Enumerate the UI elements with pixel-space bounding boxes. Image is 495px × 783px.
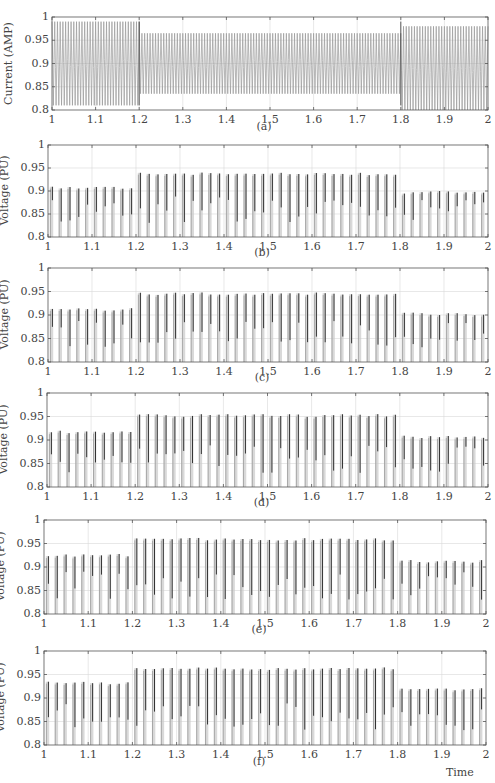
x-tick-label: 1.8 [383,618,413,629]
x-axis-label-time: Time [446,766,474,779]
panel-caption: (b) [247,246,277,259]
plot-area [52,17,488,110]
panel-caption: (c) [247,371,277,384]
plot-area [48,145,488,237]
y-tick-label: 0.9 [7,692,41,703]
y-tick-label: 0.95 [11,286,45,297]
y-tick-label: 0.85 [11,208,45,219]
x-tick-label: 1.8 [383,749,413,760]
x-tick-label: 1.4 [211,114,241,125]
y-tick-label: 0.95 [15,34,49,45]
x-tick-label: 1.8 [385,491,415,502]
x-tick-label: 1.6 [297,241,327,252]
y-tick-label: 0.85 [7,585,41,596]
y-tick-label: 1 [10,387,44,398]
plot-panel [48,145,488,237]
x-tick-label: 1.2 [121,366,151,377]
x-tick-label: 1.9 [427,749,457,760]
x-tick-label: 1 [33,366,63,377]
y-tick-label: 1 [15,11,49,22]
x-tick-label: 1.3 [165,241,195,252]
y-tick-label: 0.9 [10,434,44,445]
x-tick-label: 1.1 [77,366,107,377]
y-axis-label: Voltage (PU) [0,651,7,745]
x-tick-label: 1.6 [294,749,324,760]
x-tick-label: 1.9 [429,241,459,252]
x-tick-label: 1.3 [168,114,198,125]
x-tick-label: 1.6 [294,618,324,629]
x-tick-label: 1.8 [385,366,415,377]
y-tick-label: 0.95 [7,669,41,680]
y-tick-label: 0.85 [15,81,49,92]
y-tick-label: 0.85 [11,333,45,344]
panel-caption: (d) [247,496,277,509]
y-axis-label: Voltage (PU) [0,268,11,362]
y-tick-label: 0.9 [7,561,41,572]
x-tick-label: 1.6 [299,114,329,125]
x-tick-label: 1 [37,114,67,125]
x-tick-label: 1.7 [341,491,371,502]
panel-caption: (f) [244,755,274,768]
x-tick-label: 1.9 [429,114,459,125]
y-tick-label: 0.95 [10,411,44,422]
x-tick-label: 1.9 [427,618,457,629]
x-tick-label: 1.1 [73,618,103,629]
y-tick-label: 0.9 [11,309,45,320]
x-tick-label: 1.1 [73,749,103,760]
x-tick-label: 1.7 [341,241,371,252]
panel-caption: (a) [249,120,279,133]
x-tick-label: 1 [29,749,59,760]
x-tick-label: 1.2 [121,241,151,252]
x-tick-label: 1.4 [209,366,239,377]
y-tick-label: 1 [11,139,45,150]
x-tick-label: 1.6 [297,366,327,377]
x-tick-label: 1.7 [338,749,368,760]
plot-area [47,393,488,487]
x-tick-label: 1.3 [165,366,195,377]
plot-panel [44,520,486,614]
x-tick-label: 1.7 [341,366,371,377]
x-tick-label: 2 [473,114,495,125]
y-tick-label: 1 [7,514,41,525]
y-tick-label: 0.85 [10,458,44,469]
x-tick-label: 1.3 [162,618,192,629]
x-tick-label: 1 [32,491,62,502]
x-tick-label: 1.6 [297,491,327,502]
x-tick-label: 1.2 [124,114,154,125]
y-tick-label: 1 [11,262,45,273]
x-tick-label: 1.7 [338,618,368,629]
y-axis-label: Voltage (PU) [0,520,7,614]
x-tick-label: 1.3 [164,491,194,502]
y-axis-label: Voltage (PU) [0,145,11,237]
x-tick-label: 1.7 [342,114,372,125]
plot-panel [48,268,488,362]
plot-area [48,268,488,362]
x-tick-label: 1.2 [117,749,147,760]
y-tick-label: 0.95 [7,538,41,549]
x-tick-label: 2 [473,241,495,252]
x-tick-label: 1.4 [209,241,239,252]
x-tick-label: 2 [473,366,495,377]
x-tick-label: 1.4 [206,749,236,760]
y-axis-label: Voltage (PU) [0,393,10,487]
x-tick-label: 1.1 [77,241,107,252]
x-tick-label: 1.3 [162,749,192,760]
x-tick-label: 1.4 [206,618,236,629]
x-tick-label: 1 [33,241,63,252]
plot-panel [47,393,488,487]
plot-area [44,520,486,614]
x-tick-label: 1.1 [81,114,111,125]
x-tick-label: 1.1 [76,491,106,502]
x-tick-label: 1.4 [208,491,238,502]
panel-caption: (e) [244,623,274,636]
x-tick-label: 1.9 [429,366,459,377]
y-tick-label: 0.95 [11,162,45,173]
x-tick-label: 2 [471,749,495,760]
plot-area [44,651,486,745]
plot-panel [44,651,486,745]
x-tick-label: 1.8 [385,241,415,252]
x-tick-label: 1.8 [386,114,416,125]
plot-panel [52,17,488,110]
x-tick-label: 1 [29,618,59,629]
y-tick-label: 0.9 [15,58,49,69]
